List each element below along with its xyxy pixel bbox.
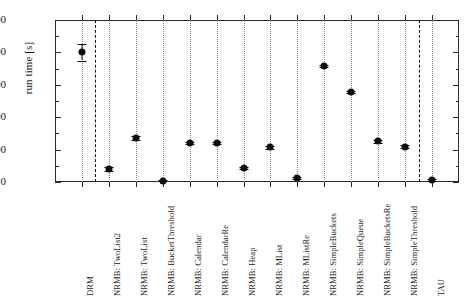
y-tick-label: 1000 (0, 14, 6, 25)
gridline (244, 20, 245, 182)
x-axis-label: NRMB: SimpleQueue (355, 219, 365, 296)
error-bar-cap (77, 44, 86, 45)
x-tick-top (217, 15, 218, 20)
y-axis-title: run time [s] (22, 0, 34, 148)
x-tick-top (244, 15, 245, 20)
x-axis-label: NRMB: SimpleThreshold (409, 206, 419, 296)
gridline (190, 20, 191, 182)
separator-line (419, 20, 420, 182)
x-tick (351, 182, 352, 187)
x-tick (378, 182, 379, 187)
x-tick (405, 182, 406, 187)
y-tick-major-right (453, 150, 459, 151)
x-axis-label: NRMB: SimpleBuckets (328, 213, 338, 296)
chart-figure: run time [s] 02004006008001000 DRMNRMB: … (0, 0, 469, 301)
y-tick-major (55, 150, 61, 151)
x-tick-top (351, 15, 352, 20)
y-tick-minor (55, 166, 59, 167)
x-tick (109, 182, 110, 187)
data-point (213, 139, 220, 146)
x-tick-top (297, 15, 298, 20)
data-point (321, 63, 328, 70)
y-tick-major-right (453, 85, 459, 86)
x-axis-label: NRMB: TwoList (139, 237, 149, 296)
gridline (217, 20, 218, 182)
x-axis-label: NRMB: Calendar (193, 234, 203, 296)
x-tick (136, 182, 137, 187)
x-tick-top (405, 15, 406, 20)
data-point (78, 49, 85, 56)
x-tick-top (82, 15, 83, 20)
data-point (132, 134, 139, 141)
y-tick-major (55, 117, 61, 118)
x-axis-label: NRMB: MListRe (301, 235, 311, 296)
x-tick (190, 182, 191, 187)
gridline (270, 20, 271, 182)
data-point (105, 166, 112, 173)
y-tick-major-right (453, 52, 459, 53)
data-point (294, 174, 301, 181)
data-point (375, 138, 382, 145)
y-tick-label: 600 (0, 79, 6, 90)
x-axis-label: DRM (85, 276, 95, 296)
x-tick-top (109, 15, 110, 20)
gridline (136, 20, 137, 182)
gridline (432, 20, 433, 182)
x-axis-label: NRMB: Heap (247, 248, 257, 296)
x-axis-label: NRMB: CalendarRe (220, 225, 230, 296)
y-tick-minor (55, 36, 59, 37)
x-tick (217, 182, 218, 187)
y-tick-major (55, 20, 61, 21)
x-tick (82, 182, 83, 187)
x-tick-top (378, 15, 379, 20)
x-tick-top (432, 15, 433, 20)
gridline (163, 20, 164, 182)
gridline (378, 20, 379, 182)
x-tick (324, 182, 325, 187)
x-axis-label: TAU (436, 279, 446, 296)
y-tick-minor (55, 69, 59, 70)
data-point (186, 139, 193, 146)
y-tick-label: 200 (0, 144, 6, 155)
y-tick-major (55, 182, 61, 183)
x-tick-top (324, 15, 325, 20)
error-bar-cap (77, 61, 86, 62)
gridline (351, 20, 352, 182)
x-axis-label: NRMB: SimpleBucketsRe (382, 204, 392, 296)
plot-area (55, 20, 459, 182)
y-tick-major-right (453, 117, 459, 118)
data-point (429, 177, 436, 184)
x-tick-top (163, 15, 164, 20)
gridline (324, 20, 325, 182)
gridline (297, 20, 298, 182)
x-tick (244, 182, 245, 187)
data-point (348, 88, 355, 95)
data-point (267, 144, 274, 151)
y-tick-minor-right (456, 69, 460, 70)
x-tick (270, 182, 271, 187)
x-axis-label: NRMB: MList (274, 245, 284, 296)
y-tick-minor-right (456, 166, 460, 167)
data-point (402, 143, 409, 150)
y-tick-major (55, 52, 61, 53)
y-tick-label: 0 (0, 176, 6, 187)
y-tick-minor (55, 133, 59, 134)
x-tick-top (190, 15, 191, 20)
x-axis-label: NRMB: BucketThreshold (166, 206, 176, 296)
gridline (405, 20, 406, 182)
y-tick-minor-right (456, 101, 460, 102)
y-tick-minor (55, 101, 59, 102)
y-tick-minor-right (456, 36, 460, 37)
x-tick-top (270, 15, 271, 20)
gridline (109, 20, 110, 182)
x-tick (297, 182, 298, 187)
separator-line (95, 20, 96, 182)
x-tick-top (136, 15, 137, 20)
y-tick-major-right (453, 182, 459, 183)
data-point (159, 177, 166, 184)
x-axis-label: NRMB: TwoList2 (112, 233, 122, 296)
y-tick-major-right (453, 20, 459, 21)
y-tick-major (55, 85, 61, 86)
data-point (240, 165, 247, 172)
y-tick-label: 400 (0, 111, 6, 122)
